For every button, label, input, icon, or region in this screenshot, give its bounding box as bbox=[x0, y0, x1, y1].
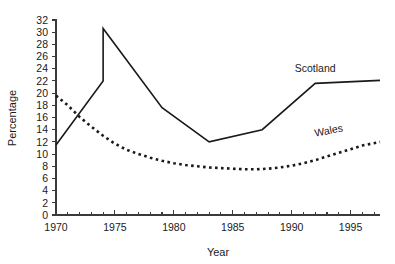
series-label-wales: Wales bbox=[313, 121, 344, 138]
y-tick-label: 0 bbox=[42, 209, 48, 221]
x-axis-tick-labels: 197019751980198519901995 bbox=[44, 221, 362, 233]
y-tick-label: 24 bbox=[36, 62, 48, 74]
y-tick-label: 28 bbox=[36, 38, 48, 50]
y-tick-label: 6 bbox=[42, 172, 48, 184]
x-tick-label: 1975 bbox=[103, 221, 127, 233]
y-tick-label: 10 bbox=[36, 148, 48, 160]
y-tick-label: 14 bbox=[36, 123, 48, 135]
y-tick-label: 8 bbox=[42, 160, 48, 172]
y-tick-label: 30 bbox=[36, 26, 48, 38]
x-tick-label: 1990 bbox=[280, 221, 304, 233]
x-tick-label: 1980 bbox=[162, 221, 186, 233]
series-labels-group: Scotland Wales bbox=[295, 62, 344, 138]
y-tick-label: 22 bbox=[36, 75, 48, 87]
y-tick-label: 4 bbox=[42, 184, 48, 196]
x-axis-group: 197019751980198519901995 bbox=[44, 210, 380, 233]
y-tick-label: 26 bbox=[36, 50, 48, 62]
y-tick-label: 18 bbox=[36, 99, 48, 111]
y-axis-ticks bbox=[52, 20, 57, 215]
x-axis-major-ticks bbox=[56, 210, 351, 215]
x-tick-label: 1985 bbox=[221, 221, 245, 233]
line-chart-figure: 02468101214161820222426283032 1970197519… bbox=[0, 0, 395, 264]
series-group bbox=[56, 29, 380, 170]
y-axis-tick-labels: 02468101214161820222426283032 bbox=[36, 14, 48, 221]
x-tick-label: 1970 bbox=[44, 221, 68, 233]
y-tick-label: 32 bbox=[36, 14, 48, 26]
y-axis-title: Percentage bbox=[6, 90, 18, 146]
series-label-scotland: Scotland bbox=[295, 62, 336, 74]
y-tick-label: 20 bbox=[36, 87, 48, 99]
chart-canvas: 02468101214161820222426283032 1970197519… bbox=[0, 0, 395, 264]
x-axis-title: Year bbox=[207, 246, 230, 258]
y-tick-label: 12 bbox=[36, 136, 48, 148]
y-axis-group: 02468101214161820222426283032 bbox=[36, 14, 56, 221]
y-tick-label: 2 bbox=[42, 197, 48, 209]
x-tick-label: 1995 bbox=[339, 221, 363, 233]
y-tick-label: 16 bbox=[36, 111, 48, 123]
